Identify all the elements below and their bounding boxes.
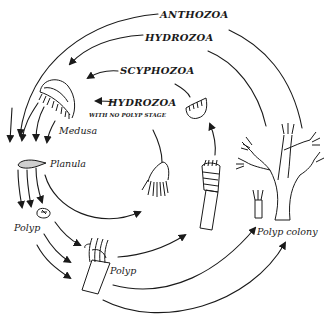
life-cycle-diagram: ANTHOZOA HYDROZOA SCYPHOZOA HYDROZOA WIT…: [0, 0, 329, 322]
scyphozoa-arc-right: [175, 84, 190, 97]
medusa-figure: [39, 80, 75, 119]
large-polyp-figure: [82, 238, 110, 294]
label-hydrozoa-no-polyp: HYDROZOA: [108, 98, 176, 108]
strobila-figure: [200, 160, 220, 230]
ephyra-figure: [186, 98, 207, 119]
hydrozoa-arc-right: [208, 51, 266, 126]
label-hydrozoa: HYDROZOA: [145, 33, 213, 43]
label-anthozoa: ANTHOZOA: [160, 10, 229, 20]
label-planula: Planula: [50, 159, 86, 169]
polyp-colony-figure: [236, 123, 324, 220]
scyphozoa-arc-left: [88, 71, 118, 78]
label-scyphozoa: SCYPHOZOA: [120, 66, 194, 76]
label-with-no-polyp-stage: WITH NO POLYP STAGE: [89, 113, 166, 119]
actinula-figure: [142, 162, 169, 197]
label-polyp-colony: Polyp colony: [257, 227, 318, 237]
label-polyp-large: Polyp: [110, 266, 136, 276]
label-medusa: Medusa: [59, 126, 97, 136]
label-polyp-small: Polyp: [14, 223, 40, 233]
planula-figure: [18, 160, 46, 168]
anthozoa-arc-right: [229, 30, 302, 128]
small-polyp-figure: [37, 208, 50, 218]
